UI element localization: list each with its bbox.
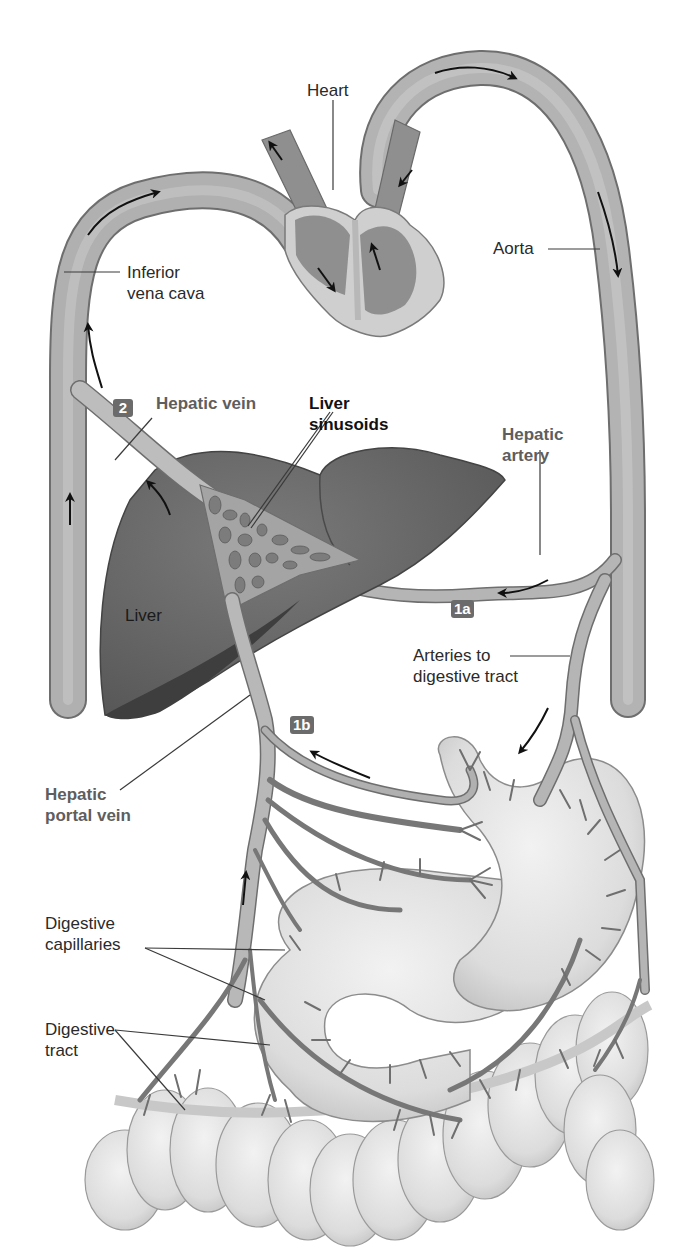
heart-organ xyxy=(262,120,444,336)
label-digestive-tract: Digestive tract xyxy=(45,1019,115,1061)
label-aorta: Aorta xyxy=(493,238,534,259)
step-badge-1a: 1a xyxy=(451,600,474,618)
label-liver-sinusoids: Liver sinusoids xyxy=(309,393,388,435)
anatomy-illustration xyxy=(0,0,681,1251)
step-badge-2: 2 xyxy=(113,399,133,417)
label-hepatic-portal-vein: Hepatic portal vein xyxy=(45,784,131,826)
label-hepatic-artery: Hepatic artery xyxy=(502,424,563,466)
label-arteries-to-digestive-tract: Arteries to digestive tract xyxy=(413,645,518,687)
label-inferior-vena-cava: Inferior vena cava xyxy=(127,262,205,304)
step-badge-1b: 1b xyxy=(290,716,314,734)
label-heart: Heart xyxy=(307,80,349,101)
arrow-icon xyxy=(520,708,548,752)
label-hepatic-vein: Hepatic vein xyxy=(156,393,256,414)
hepatic-portal-diagram: Heart Aorta Inferior vena cava Hepatic v… xyxy=(0,0,681,1251)
arrow-icon xyxy=(88,325,102,388)
label-digestive-capillaries: Digestive capillaries xyxy=(45,913,121,955)
label-liver: Liver xyxy=(125,605,162,626)
